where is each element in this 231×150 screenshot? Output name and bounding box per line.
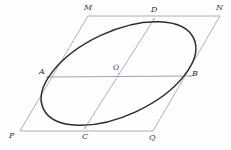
vertex-label-q: Q [149,134,156,142]
tangent-label-c: C [82,133,88,141]
chord-cd [85,19,154,128]
tangent-label-a: A [39,68,45,76]
center-label-o: O [113,64,119,72]
tangent-markers [47,19,192,129]
tangent-marker-a [47,77,48,78]
center-marker-o [118,73,119,74]
tangent-label-b: B [192,70,198,78]
tangent-marker-c [85,128,86,129]
tangent-label-d: D [151,6,157,14]
tangent-marker-d [154,19,155,20]
chord-ab [47,76,191,77]
vertex-label-n: N [216,4,223,12]
vertex-label-p: P [9,132,14,140]
geometry-figure: M N Q P A B C D O [0,0,231,150]
vertex-label-m: M [84,4,92,12]
